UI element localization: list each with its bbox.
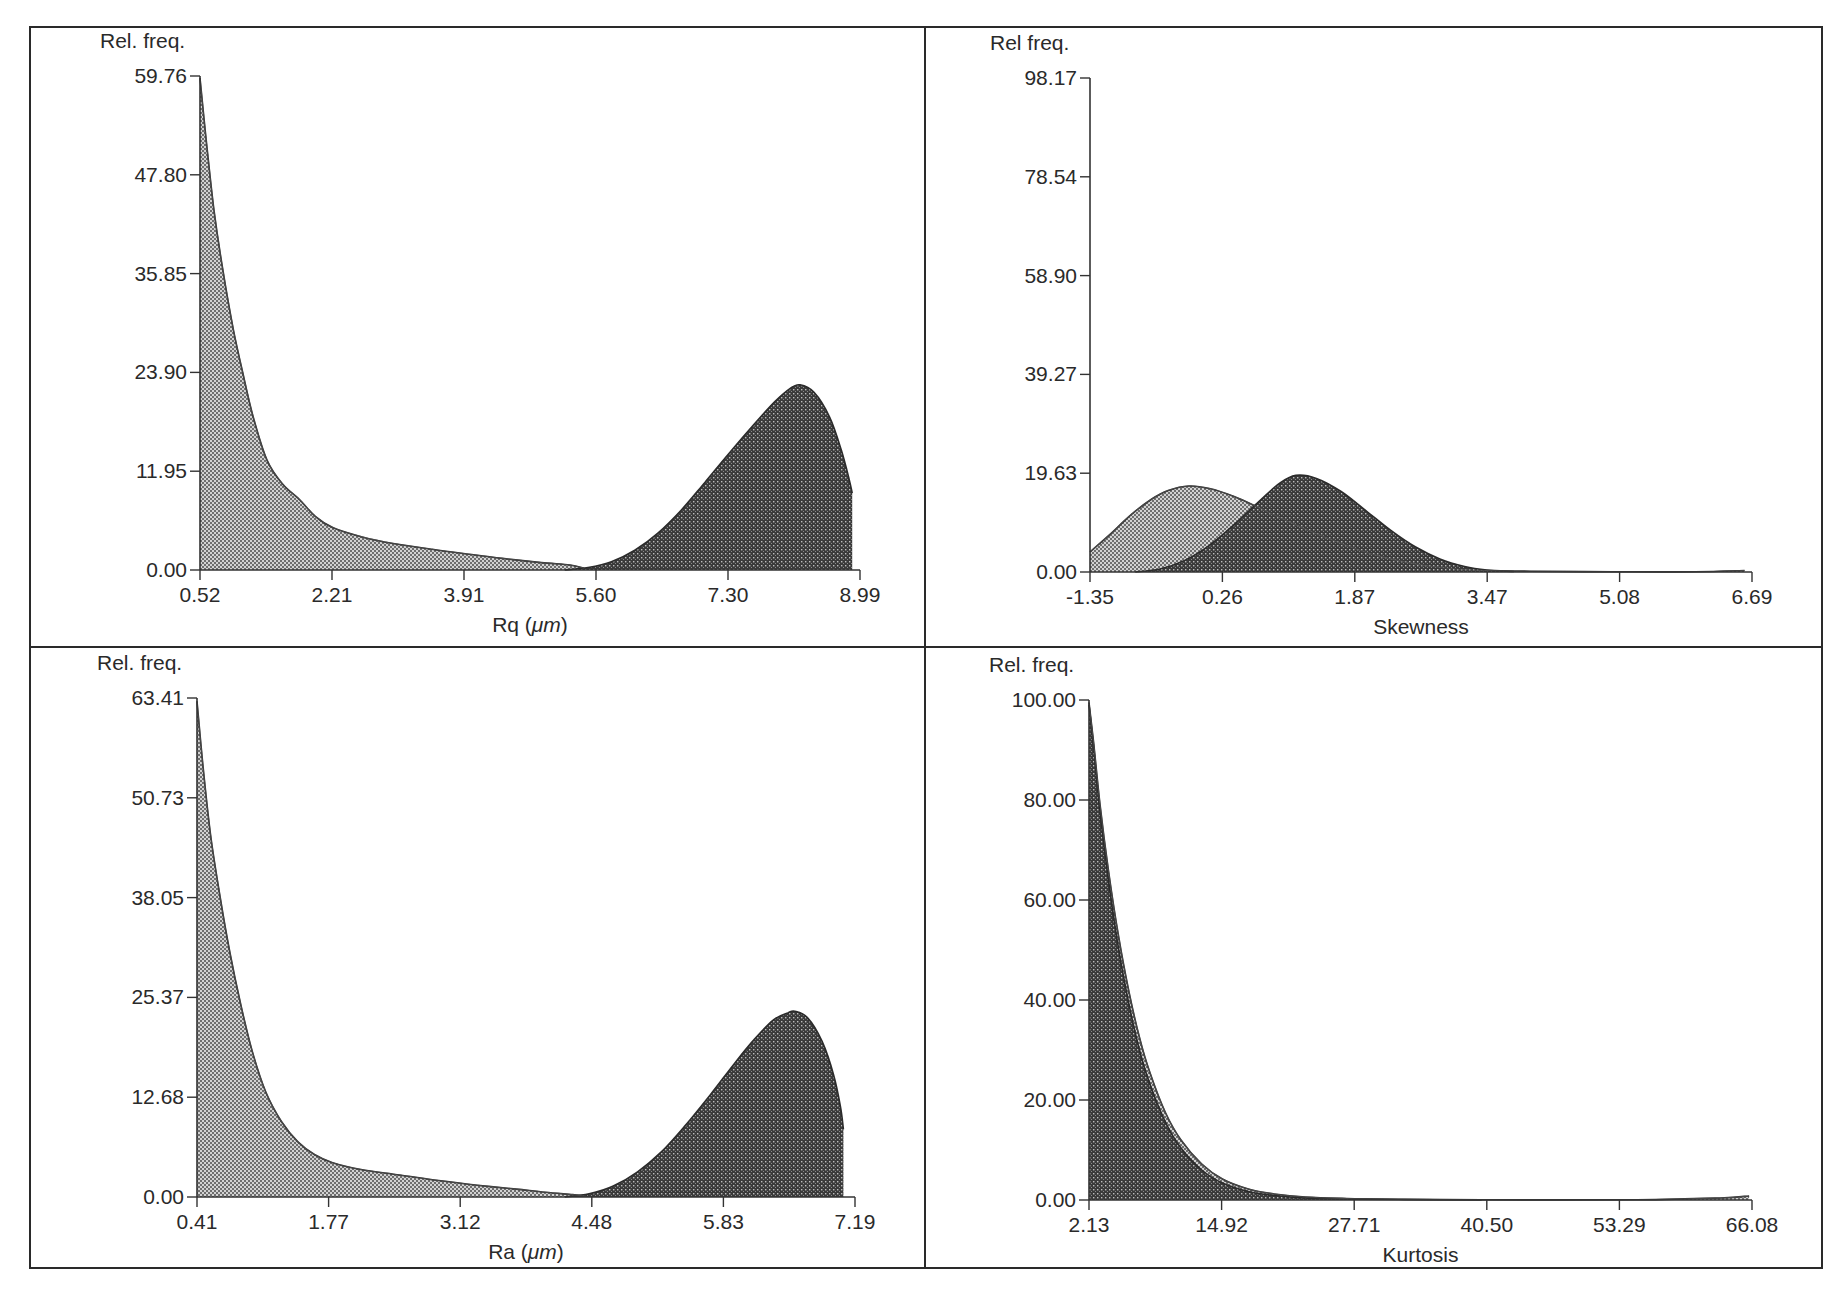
figure-canvas: 0.0011.9523.9035.8547.8059.760.522.213.9… bbox=[0, 0, 1838, 1289]
y-tick-label: 0.00 bbox=[146, 558, 187, 581]
x-tick-label: 0.26 bbox=[1202, 585, 1243, 608]
y-tick-label: 0.00 bbox=[143, 1185, 184, 1208]
x-tick-label: 7.30 bbox=[708, 583, 749, 606]
x-tick-label: 1.77 bbox=[308, 1210, 349, 1233]
area-fills bbox=[197, 701, 843, 1197]
y-tick-label: 25.37 bbox=[131, 985, 184, 1008]
y-tick-label: 47.80 bbox=[134, 163, 187, 186]
y-tick-label: 35.85 bbox=[134, 262, 187, 285]
y-tick-label: 20.00 bbox=[1023, 1088, 1076, 1111]
area-dark-distribution bbox=[565, 1011, 844, 1197]
y-axis-label: Rel. freq. bbox=[989, 653, 1074, 676]
y-tick-label: 50.73 bbox=[131, 786, 184, 809]
y-tick-label: 39.27 bbox=[1024, 362, 1077, 385]
area-fills bbox=[1089, 703, 1749, 1201]
x-tick-label: 8.99 bbox=[840, 583, 881, 606]
y-tick-label: 0.00 bbox=[1035, 1188, 1076, 1211]
y-tick-label: 0.00 bbox=[1036, 560, 1077, 583]
x-tick-label: 6.69 bbox=[1732, 585, 1773, 608]
y-tick-label: 12.68 bbox=[131, 1085, 184, 1108]
x-tick-label: 14.92 bbox=[1195, 1213, 1248, 1236]
y-tick-label: 78.54 bbox=[1024, 165, 1077, 188]
y-tick-label: 60.00 bbox=[1023, 888, 1076, 911]
area-light-distribution bbox=[1089, 703, 1749, 1201]
curve-light-outline bbox=[1089, 703, 1749, 1200]
x-tick-label: 40.50 bbox=[1461, 1213, 1514, 1236]
panel-kurtosis-distribution: 0.0020.0040.0060.0080.00100.002.1314.922… bbox=[989, 653, 1778, 1266]
figure-frame bbox=[30, 27, 1822, 1268]
y-tick-label: 19.63 bbox=[1024, 461, 1077, 484]
y-axis-label: Rel. freq. bbox=[100, 29, 185, 52]
y-tick-label: 58.90 bbox=[1024, 264, 1077, 287]
x-tick-label: 5.83 bbox=[703, 1210, 744, 1233]
x-tick-label: 27.71 bbox=[1328, 1213, 1381, 1236]
x-axis-label: Kurtosis bbox=[1383, 1243, 1459, 1266]
x-tick-label: 1.87 bbox=[1334, 585, 1375, 608]
x-tick-label: 0.41 bbox=[177, 1210, 218, 1233]
x-tick-label: 53.29 bbox=[1593, 1213, 1646, 1236]
area-fills bbox=[200, 78, 852, 570]
y-tick-label: 40.00 bbox=[1023, 988, 1076, 1011]
x-tick-label: 3.91 bbox=[444, 583, 485, 606]
x-tick-label: -1.35 bbox=[1066, 585, 1114, 608]
x-axis-label: Rq (μm) bbox=[492, 613, 568, 636]
x-tick-label: 4.48 bbox=[571, 1210, 612, 1233]
area-light-distribution bbox=[200, 78, 584, 570]
y-tick-label: 98.17 bbox=[1024, 66, 1077, 89]
y-tick-label: 63.41 bbox=[131, 686, 184, 709]
curve-light-overlay bbox=[1089, 703, 1749, 1200]
x-axis-label: Ra (μm) bbox=[488, 1240, 564, 1263]
x-tick-label: 66.08 bbox=[1726, 1213, 1779, 1236]
area-dark-distribution bbox=[1089, 705, 1482, 1200]
y-tick-label: 38.05 bbox=[131, 886, 184, 909]
x-tick-label: 2.21 bbox=[312, 583, 353, 606]
y-tick-label: 100.00 bbox=[1012, 688, 1076, 711]
x-axis-label: Skewness bbox=[1373, 615, 1469, 638]
y-tick-label: 11.95 bbox=[136, 459, 187, 482]
x-tick-label: 0.52 bbox=[180, 583, 221, 606]
x-tick-label: 3.12 bbox=[440, 1210, 481, 1233]
y-axis-label: Rel. freq. bbox=[97, 651, 182, 674]
area-light-distribution bbox=[197, 701, 586, 1197]
y-axis-label: Rel freq. bbox=[990, 31, 1069, 54]
area-fills bbox=[1090, 475, 1745, 572]
y-tick-label: 80.00 bbox=[1023, 788, 1076, 811]
x-tick-label: 5.08 bbox=[1599, 585, 1640, 608]
x-tick-label: 5.60 bbox=[576, 583, 617, 606]
panel-ra-distribution: 0.0012.6825.3738.0550.7363.410.411.773.1… bbox=[97, 651, 875, 1263]
panel-rq-distribution: 0.0011.9523.9035.8547.8059.760.522.213.9… bbox=[100, 29, 880, 636]
y-tick-label: 23.90 bbox=[134, 360, 187, 383]
panel-skewness-distribution: 0.0019.6339.2758.9078.5498.17-1.350.261.… bbox=[990, 31, 1772, 638]
x-tick-label: 3.47 bbox=[1467, 585, 1508, 608]
x-tick-label: 2.13 bbox=[1069, 1213, 1110, 1236]
y-tick-label: 59.76 bbox=[134, 64, 187, 87]
x-tick-label: 7.19 bbox=[835, 1210, 876, 1233]
